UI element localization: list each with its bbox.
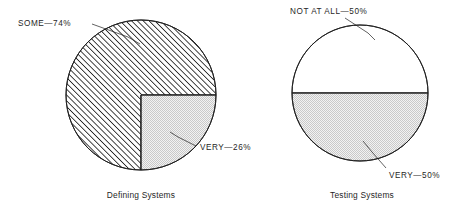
chart-testing-systems: NOT AT ALL—50% VERY—50% Testing Systems [290,7,440,200]
slice-not-at-all-50 [292,25,428,93]
caption-testing-systems: Testing Systems [330,190,394,200]
label-some-74: SOME—74% [18,19,71,28]
slice-very-26 [141,95,216,170]
pie-charts-svg: SOME—74% VERY—26% Defining Systems NOT A… [0,0,460,210]
figure-pie-charts: SOME—74% VERY—26% Defining Systems NOT A… [0,0,460,210]
label-very-50: VERY—50% [389,171,440,180]
label-not-at-all-50: NOT AT ALL—50% [290,7,367,16]
caption-defining-systems: Defining Systems [107,190,175,200]
chart-defining-systems: SOME—74% VERY—26% Defining Systems [18,19,251,200]
label-very-26: VERY—26% [200,143,251,152]
slice-very-50 [292,93,428,161]
